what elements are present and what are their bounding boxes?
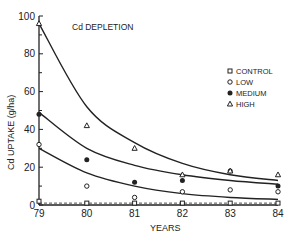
data-point-low bbox=[85, 184, 89, 188]
y-tick-label: 100 bbox=[18, 11, 35, 22]
data-point-low bbox=[37, 142, 41, 146]
legend-marker-low-icon bbox=[228, 80, 232, 84]
data-point-medium bbox=[180, 178, 185, 183]
data-point-medium bbox=[84, 157, 89, 162]
chart-svg: 020406080100798081828384 Cd DEPLETION YE… bbox=[0, 0, 291, 239]
fitted-curves bbox=[39, 24, 278, 204]
y-tick-label: 80 bbox=[24, 48, 36, 59]
data-point-control bbox=[228, 201, 232, 205]
legend-label-low: LOW bbox=[236, 78, 254, 87]
data-point-high bbox=[84, 123, 89, 128]
axes: 020406080100798081828384 bbox=[18, 11, 284, 220]
data-point-high bbox=[180, 172, 185, 177]
x-tick-label: 79 bbox=[33, 208, 45, 219]
fitted-curve bbox=[39, 112, 278, 184]
legend-label-control: CONTROL bbox=[236, 67, 273, 76]
data-point-control bbox=[180, 201, 184, 205]
chart: 020406080100798081828384 Cd DEPLETION YE… bbox=[0, 0, 291, 239]
data-point-medium bbox=[132, 180, 137, 185]
data-point-medium bbox=[276, 184, 281, 189]
x-tick-label: 80 bbox=[81, 208, 93, 219]
legend-label-high: HIGH bbox=[236, 100, 255, 109]
x-tick-label: 82 bbox=[177, 208, 189, 219]
chart-title: Cd DEPLETION bbox=[72, 22, 133, 32]
legend: CONTROL LOW MEDIUM HIGH bbox=[227, 67, 272, 109]
legend-marker-control-icon bbox=[228, 69, 232, 73]
data-point-low bbox=[228, 188, 232, 192]
data-point-medium bbox=[37, 112, 42, 117]
data-point-high bbox=[36, 21, 41, 26]
data-point-control bbox=[133, 201, 137, 205]
data-point-control bbox=[37, 199, 41, 203]
y-axis-label: Cd UPTAKE (g/ha) bbox=[6, 95, 16, 170]
data-point-high bbox=[132, 146, 137, 151]
data-point-high bbox=[275, 172, 280, 177]
x-tick-label: 81 bbox=[129, 208, 141, 219]
legend-marker-medium-icon bbox=[228, 91, 233, 96]
y-tick-label: 60 bbox=[24, 86, 36, 97]
data-point-high bbox=[228, 168, 233, 173]
data-point-low bbox=[276, 190, 280, 194]
legend-marker-high-icon bbox=[227, 101, 232, 106]
y-tick-label: 20 bbox=[24, 162, 36, 173]
data-point-control bbox=[85, 201, 89, 205]
data-point-low bbox=[132, 195, 136, 199]
data-point-low bbox=[180, 190, 184, 194]
x-tick-label: 83 bbox=[225, 208, 237, 219]
fitted-curve bbox=[39, 148, 278, 199]
legend-label-medium: MEDIUM bbox=[236, 89, 266, 98]
x-axis-label: YEARS bbox=[150, 223, 181, 233]
data-point-control bbox=[276, 201, 280, 205]
x-tick-label: 84 bbox=[272, 208, 284, 219]
y-tick-label: 40 bbox=[24, 124, 36, 135]
